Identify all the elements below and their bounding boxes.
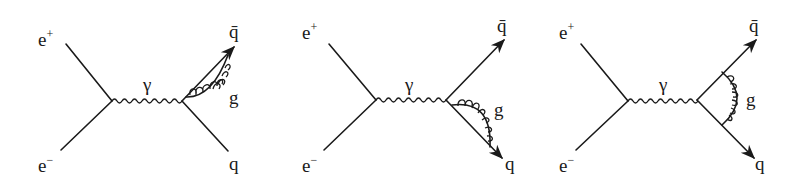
positron-label: e+ bbox=[302, 20, 317, 43]
gluon-label: g bbox=[746, 89, 756, 110]
antiquark-label: q̄ bbox=[749, 15, 759, 36]
positron-label: e+ bbox=[559, 20, 574, 43]
diagram-2: e+ e− γ q̄ g q bbox=[302, 15, 515, 176]
gluon-loop bbox=[452, 100, 492, 147]
quark-label: q bbox=[755, 153, 765, 174]
quark-label: q bbox=[505, 153, 515, 174]
quark-label: q bbox=[229, 153, 239, 174]
electron-label: e− bbox=[38, 153, 53, 176]
photon-propagator bbox=[628, 99, 698, 103]
photon-label: γ bbox=[404, 74, 413, 95]
positron-line bbox=[66, 44, 112, 101]
electron-line bbox=[576, 101, 628, 150]
antiquark-label: q̄ bbox=[497, 15, 507, 36]
photon-label: γ bbox=[142, 74, 151, 95]
electron-label: e− bbox=[559, 153, 574, 176]
photon-propagator bbox=[112, 99, 182, 103]
positron-line bbox=[329, 44, 376, 100]
photon-label: γ bbox=[658, 74, 667, 95]
electron-label: e− bbox=[302, 153, 317, 176]
diagram-3: e+ e− γ q̄ g q bbox=[559, 15, 765, 176]
gluon-exchange bbox=[722, 72, 738, 125]
gluon-label: g bbox=[494, 99, 504, 120]
diagram-1: e+ e− γ q̄ g q bbox=[38, 21, 239, 176]
antiquark-label: q̄ bbox=[229, 21, 239, 42]
electron-line bbox=[324, 100, 376, 150]
positron-label: e+ bbox=[38, 27, 53, 50]
electron-line bbox=[61, 101, 112, 150]
gluon-label: g bbox=[229, 87, 239, 108]
quark-line bbox=[182, 101, 228, 151]
feynman-diagrams-figure: e+ e− γ q̄ g q e+ e− γ q̄ g q bbox=[0, 0, 804, 181]
antiquark-line bbox=[446, 40, 504, 100]
photon-propagator bbox=[376, 98, 446, 102]
positron-line bbox=[581, 44, 628, 101]
